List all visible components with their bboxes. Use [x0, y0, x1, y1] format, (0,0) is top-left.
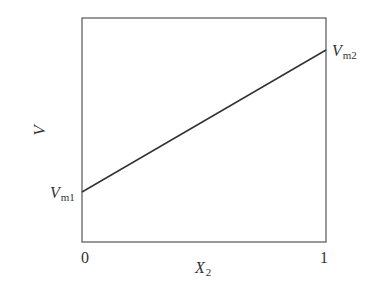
- x-axis-sub: 2: [206, 266, 212, 278]
- vm1-main: V: [50, 184, 60, 201]
- vm2-sub: m2: [343, 49, 357, 61]
- x-tick-0: 0: [81, 250, 89, 266]
- x-tick-1: 1: [320, 250, 328, 266]
- y-axis-label: V: [31, 125, 48, 135]
- plot-frame: [82, 18, 326, 242]
- x-axis-main: X: [195, 259, 205, 276]
- vm2-main: V: [332, 42, 342, 59]
- vm2-label: Vm2: [332, 43, 357, 61]
- x-axis-label: X2: [195, 260, 211, 278]
- data-line: [82, 50, 326, 192]
- vm1-sub: m1: [61, 191, 75, 203]
- vm1-label: Vm1: [50, 185, 75, 203]
